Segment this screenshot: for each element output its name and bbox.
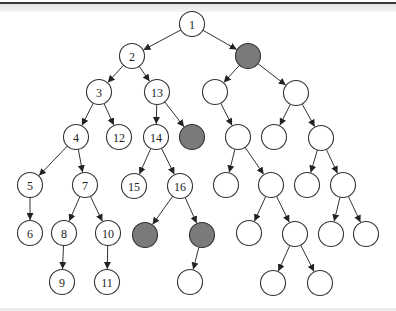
node-circle [295, 173, 320, 198]
edge-r2-r5 [302, 104, 315, 127]
node-label: 2 [129, 50, 135, 64]
tree-node-g2 [180, 125, 205, 150]
node-label: 7 [82, 179, 88, 193]
tree-node-n8: 8 [52, 221, 77, 246]
tree-node-n16: 16 [168, 174, 193, 199]
node-label: 6 [27, 227, 33, 241]
tree-node-r15 [261, 271, 286, 296]
edge-r11-r15 [278, 245, 290, 271]
nodes-layer: 12313412145715166810911 [18, 12, 379, 296]
tree-node-n13: 13 [145, 80, 170, 105]
node-label: 16 [174, 180, 186, 194]
tree-node-r14 [178, 270, 203, 295]
tree-node-r9 [331, 173, 356, 198]
tree-node-r5 [309, 126, 334, 151]
tree-node-n2: 2 [120, 44, 145, 69]
node-circle [309, 126, 334, 151]
edge-n4-n7 [78, 149, 82, 172]
node-circle [237, 221, 262, 246]
node-circle [259, 173, 284, 198]
tree-node-n4: 4 [64, 125, 89, 150]
node-label: 11 [101, 276, 113, 290]
edge-r9-r13 [348, 196, 360, 222]
node-circle [203, 80, 228, 105]
tree-node-n11: 11 [95, 270, 120, 295]
edge-r7-r10 [254, 196, 265, 221]
tree-node-n3: 3 [87, 80, 112, 105]
node-label: 13 [151, 86, 163, 100]
tree-node-n5: 5 [18, 173, 43, 198]
node-circle [354, 222, 379, 247]
highlighted-node-circle [190, 223, 215, 248]
edge-n16-g3 [153, 196, 173, 224]
tree-node-r1 [203, 80, 228, 105]
edge-n1-g1 [203, 30, 237, 49]
edge-r9-r12 [334, 197, 340, 221]
node-label: 15 [128, 180, 140, 194]
edge-n13-g2 [165, 102, 184, 127]
node-circle [226, 125, 251, 150]
tree-node-n9: 9 [50, 270, 75, 295]
edge-r1-r3 [221, 103, 232, 125]
node-label: 8 [61, 227, 67, 241]
highlighted-node-circle [133, 223, 158, 248]
edge-r11-r16 [301, 245, 314, 271]
tree-node-n14: 14 [144, 125, 169, 150]
tree-node-r10 [237, 221, 262, 246]
tree-node-r7 [259, 173, 284, 198]
tree-node-g4 [190, 223, 215, 248]
edge-n16-g4 [185, 197, 197, 223]
edge-n8-n9 [63, 245, 64, 269]
node-label: 4 [73, 131, 79, 145]
edge-n2-n13 [139, 66, 149, 81]
tree-node-n1: 1 [180, 12, 205, 37]
node-label: 10 [102, 227, 114, 241]
edge-n14-n16 [161, 148, 174, 174]
edge-n14-n15 [139, 148, 151, 174]
edge-n7-n10 [90, 196, 102, 221]
tree-node-r11 [283, 222, 308, 247]
edge-g4-r14 [193, 247, 199, 269]
node-circle [284, 81, 309, 106]
edge-r5-r8 [311, 150, 318, 173]
tree-node-n10: 10 [96, 221, 121, 246]
node-circle [178, 270, 203, 295]
highlighted-node-circle [236, 44, 261, 69]
tree-diagram: 12313412145715166810911 [0, 0, 396, 311]
tree-node-n6: 6 [18, 221, 43, 246]
edge-n3-n4 [82, 103, 93, 125]
node-circle [261, 271, 286, 296]
node-label: 5 [27, 179, 33, 193]
node-circle [283, 222, 308, 247]
tree-node-n15: 15 [122, 174, 147, 199]
edge-n3-n12 [104, 103, 114, 125]
edge-n4-n5 [39, 146, 67, 176]
edge-g1-r1 [224, 65, 240, 82]
edge-n1-n2 [143, 30, 181, 50]
node-label: 1 [189, 18, 195, 32]
edge-g1-r2 [258, 64, 286, 85]
edge-r3-r6 [229, 149, 235, 172]
tree-node-g3 [133, 223, 158, 248]
tree-node-r16 [308, 271, 333, 296]
tree-node-r8 [295, 173, 320, 198]
tree-node-r12 [319, 222, 344, 247]
edge-r3-r7 [245, 147, 264, 174]
node-label: 3 [96, 86, 102, 100]
tree-node-g1 [236, 44, 261, 69]
edge-n2-n3 [108, 65, 124, 82]
node-label: 12 [113, 131, 125, 145]
tree-node-r3 [226, 125, 251, 150]
tree-node-r13 [354, 222, 379, 247]
edge-n7-n8 [69, 196, 80, 221]
node-circle [308, 271, 333, 296]
edge-r5-r9 [326, 149, 337, 173]
node-circle [262, 125, 287, 150]
node-circle [319, 222, 344, 247]
tree-node-r2 [284, 81, 309, 106]
tree-node-r4 [262, 125, 287, 150]
node-circle [214, 173, 239, 198]
node-label: 9 [59, 276, 65, 290]
highlighted-node-circle [180, 125, 205, 150]
edge-r7-r11 [276, 196, 289, 222]
